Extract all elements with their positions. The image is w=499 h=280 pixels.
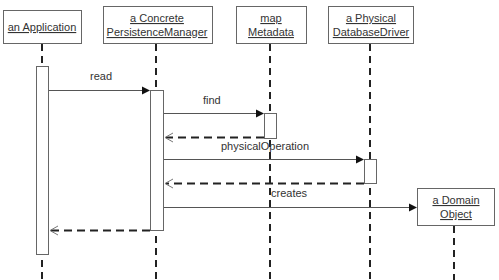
message-read[interactable]: read [49,70,150,95]
participant-db[interactable]: a Physical DatabaseDriver [329,7,414,44]
arrowhead-filled-icon [142,87,150,95]
participant-meta-label-1: map [260,12,281,24]
arrowhead-filled-icon [256,110,264,118]
activation-app [37,67,49,255]
participant-app[interactable]: an Application [4,11,82,44]
participant-app-label: an Application [8,21,77,33]
message-physical-operation[interactable]: physicalOperation [164,140,364,164]
message-creates-label: creates [271,187,308,199]
message-find[interactable]: find [164,94,264,118]
participant-dom-label-2: Object [440,208,472,220]
message-return-db[interactable] [165,179,364,188]
message-return-app[interactable] [50,226,150,235]
participant-db-label-2: DatabaseDriver [333,26,410,38]
participant-pm[interactable]: a Concrete PersistenceManager [104,7,213,44]
participant-meta-label-2: Metadata [248,26,295,38]
arrowhead-filled-icon [409,204,417,212]
arrowhead-filled-icon [356,156,364,164]
activation-meta [265,114,277,139]
participant-pm-label-1: a Concrete [130,12,184,24]
participant-dom-label-1: a Domain [432,194,479,206]
sequence-diagram: an Application a Concrete PersistenceMan… [0,0,499,280]
participant-db-label-1: a Physical [346,12,396,24]
participant-pm-label-2: PersistenceManager [107,26,208,38]
participant-dom[interactable]: a Domain Object [418,189,495,226]
participant-meta[interactable]: map Metadata [237,7,307,44]
message-creates[interactable]: creates [164,187,417,212]
activation-pm [151,91,164,231]
activation-db [365,160,377,184]
message-physical-operation-label: physicalOperation [221,140,309,152]
message-find-label: find [203,94,221,106]
message-read-label: read [90,70,112,82]
